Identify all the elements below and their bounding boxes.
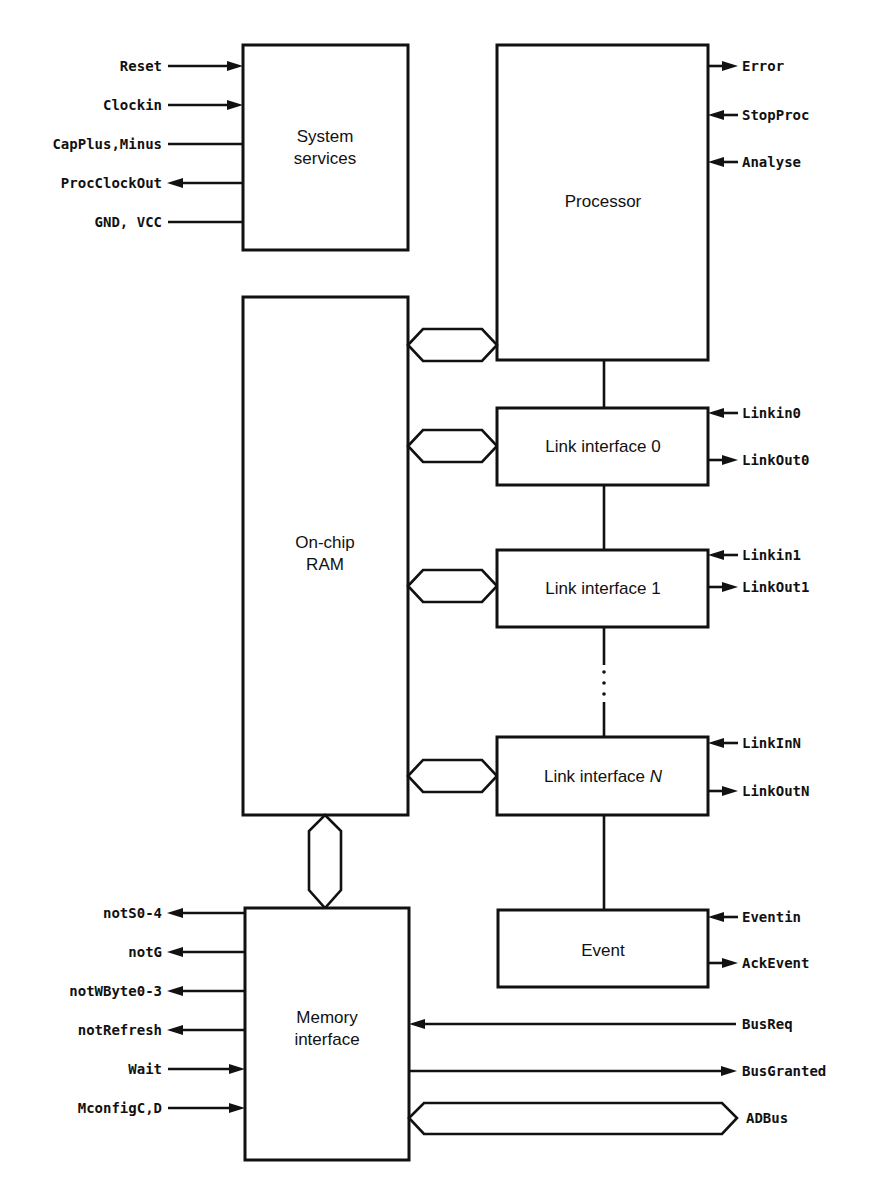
arrow-right-icon [722, 582, 738, 592]
signal-notwbyte0-3: notWByte0-3 [69, 983, 245, 999]
signal-procclockout: ProcClockOut [61, 175, 243, 191]
arrow-right-icon [227, 100, 243, 110]
signal-stopproc: StopProc [708, 107, 809, 123]
arrow-left-icon [167, 178, 183, 188]
bus-ram-processor [408, 329, 497, 361]
arrow-right-icon [227, 61, 243, 71]
signal-linkin1: Linkin1 [708, 547, 801, 563]
system-services-block: System services [243, 45, 408, 250]
arrow-left-icon [708, 408, 724, 418]
signal-analyse: Analyse [708, 154, 801, 170]
signal-label-error: Error [742, 58, 784, 74]
signal-label-notwbyte0-3: notWByte0-3 [69, 983, 162, 999]
signal-label-linkoutN: LinkOutN [742, 783, 809, 799]
event-label: Event [581, 941, 625, 960]
arrow-left-icon [409, 1019, 425, 1029]
signal-label-stopproc: StopProc [742, 107, 809, 123]
signal-label-clockin: Clockin [103, 97, 162, 113]
continuation-dot [602, 692, 606, 696]
arrow-right-icon [721, 1066, 737, 1076]
signal-clockin: Clockin [103, 97, 243, 113]
signal-linkoutN: LinkOutN [708, 783, 809, 799]
signal-busreq: BusReq [409, 1016, 793, 1032]
arrow-left-icon [708, 157, 724, 167]
bus-ram-linkN [408, 760, 497, 792]
linkN-label-italic: N [650, 767, 663, 786]
signal-label-procclockout: ProcClockOut [61, 175, 162, 191]
signal-linkout1: LinkOut1 [708, 579, 809, 595]
signal-mconfigc-d: MconfigC,D [78, 1100, 245, 1116]
link0-label: Link interface 0 [545, 437, 660, 456]
ram-block: On-chip RAM [243, 297, 408, 815]
signal-label-ackevent: AckEvent [742, 955, 809, 971]
bus-ram-memory [309, 815, 341, 908]
arrow-left-icon [167, 947, 183, 957]
arrow-left-icon [167, 1025, 183, 1035]
signal-label-mconfigc-d: MconfigC,D [78, 1100, 162, 1116]
arrow-left-icon [708, 912, 724, 922]
memory-label-2: interface [294, 1030, 359, 1049]
signal-label-linkout1: LinkOut1 [742, 579, 809, 595]
system-services-label-2: services [294, 149, 356, 168]
signal-wait: Wait [128, 1061, 245, 1077]
ram-label-2: RAM [306, 555, 344, 574]
signal-nots0-4: notS0-4 [103, 905, 245, 921]
signal-eventin: Eventin [708, 909, 801, 925]
signal-busgranted: BusGranted [409, 1063, 826, 1079]
signal-label-linkinN: LinkInN [742, 735, 801, 751]
arrow-left-icon [708, 738, 724, 748]
memory-label-1: Memory [296, 1008, 358, 1027]
signal-label-busreq: BusReq [742, 1016, 793, 1032]
link1-label: Link interface 1 [545, 579, 660, 598]
signal-label-notg: notG [128, 944, 162, 960]
signal-linkinN: LinkInN [708, 735, 801, 751]
signal-label-wait: Wait [128, 1061, 162, 1077]
signal-ackevent: AckEvent [708, 955, 809, 971]
signal-label-notrefresh: notRefresh [78, 1022, 162, 1038]
event-block: Event [498, 910, 708, 987]
processor-label: Processor [565, 192, 642, 211]
adbus-bus-shape [409, 1103, 737, 1134]
linkN-label-prefix: Link interface [544, 767, 650, 786]
arrow-left-icon [708, 110, 724, 120]
link-interface-1-block: Link interface 1 [497, 550, 708, 627]
signal-label-gnd-vcc: GND, VCC [95, 214, 162, 230]
bus-ram-link0 [408, 430, 497, 462]
signal-label-nots0-4: notS0-4 [103, 905, 162, 921]
signal-label-linkin1: Linkin1 [742, 547, 801, 563]
continuation-dot [602, 670, 606, 674]
signal-label-reset: Reset [120, 58, 162, 74]
signal-reset: Reset [120, 58, 243, 74]
processor-block: Processor [497, 45, 708, 360]
link-interface-n-block: Link interface N [497, 737, 708, 815]
memory-interface-block: Memory interface [245, 908, 409, 1160]
signal-adbus: ADBus [409, 1103, 788, 1134]
arrow-right-icon [722, 958, 738, 968]
continuation-dot [602, 681, 606, 685]
signal-linkout0: LinkOut0 [708, 452, 809, 468]
signal-label-linkout0: LinkOut0 [742, 452, 809, 468]
arrow-right-icon [722, 786, 738, 796]
arrow-right-icon [229, 1064, 245, 1074]
bus-ram-link1 [408, 570, 497, 602]
ram-label-1: On-chip [295, 533, 355, 552]
signal-gnd-vcc: GND, VCC [95, 214, 243, 230]
arrow-right-icon [229, 1103, 245, 1113]
signal-label-capplus-minus: CapPlus,Minus [52, 136, 162, 152]
linkN-label: Link interface N [544, 767, 663, 786]
arrow-left-icon [708, 550, 724, 560]
signal-linkin0: Linkin0 [708, 405, 801, 421]
system-services-label-1: System [297, 127, 354, 146]
signal-label-eventin: Eventin [742, 909, 801, 925]
arrow-right-icon [722, 61, 738, 71]
transputer-block-diagram: System services Reset Clockin CapPlus,Mi… [0, 0, 872, 1189]
arrow-left-icon [167, 986, 183, 996]
signal-capplus-minus: CapPlus,Minus [52, 136, 243, 152]
signal-label-linkin0: Linkin0 [742, 405, 801, 421]
link-interface-0-block: Link interface 0 [497, 408, 708, 485]
signal-label-busgranted: BusGranted [742, 1063, 826, 1079]
arrow-right-icon [722, 455, 738, 465]
signal-label-adbus: ADBus [746, 1110, 788, 1126]
signal-label-analyse: Analyse [742, 154, 801, 170]
signal-error: Error [708, 58, 784, 74]
